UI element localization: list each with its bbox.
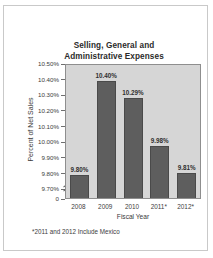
bar-2010[interactable] [124,98,143,198]
x-axis-tick-group: 2008200920102011*2012* [65,199,201,213]
bar-slot: 9.80% [66,65,93,198]
bar-slot: 9.98% [146,65,173,198]
figure-frame: Selling, General and Administrative Expe… [3,5,208,251]
bar-2008[interactable] [70,175,89,198]
bar-2011[interactable] [150,146,169,198]
y-axis-tick-label: 9.90% [41,154,59,162]
chart-title: Selling, General and Administrative Expe… [34,40,194,62]
chart-footnote: *2011 and 2012 Include Mexico [32,228,120,235]
bar-value-label: 9.81% [168,164,201,171]
plot-area: 9.80%10.40%10.29%9.98%9.81% [65,64,201,199]
bar-slot: 10.29% [120,65,147,198]
bar-2012[interactable] [177,173,196,198]
y-axis-tick-label: 9.80% [41,170,59,178]
y-axis-tick-label: 9.70% [41,185,59,193]
bar-slot: 10.40% [93,65,120,198]
y-axis-tick-label: 0 [56,195,59,203]
y-axis-tick-label: 10.10% [38,123,59,131]
y-axis-tick-label: 10.00% [38,138,59,146]
chart-title-line-1: Selling, General and [74,41,155,50]
y-axis-tick-label: 10.40% [38,76,59,84]
y-axis-tick-label: 10.30% [38,91,59,99]
bar-slot: 9.81% [173,65,200,198]
bar-2009[interactable] [97,81,116,198]
x-axis-tick-label: 2012* [169,203,203,210]
y-axis-tick-label: 10.20% [38,107,59,115]
x-axis-title: Fiscal Year [65,213,201,220]
y-axis-tick-group: 10.50%10.40%10.30%10.20%10.10%10.00%9.90… [4,64,65,200]
y-axis-tick-label: 10.50% [38,60,59,68]
bars-layer: 9.80%10.40%10.29%9.98%9.81% [66,65,200,198]
x-axis-tick: 2012* [169,199,203,210]
